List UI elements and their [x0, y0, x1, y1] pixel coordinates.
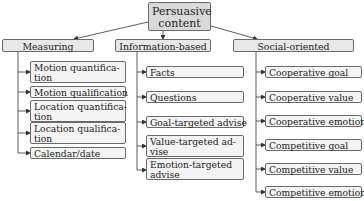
leaf-facts: Facts	[146, 66, 244, 78]
leaf-competitive-goal: Competitive goal	[265, 139, 362, 151]
category-information-based: Information-based	[115, 39, 211, 52]
leaf-label: Goal-targeted advise	[150, 118, 240, 128]
leaf-label: Facts	[150, 68, 240, 78]
leaf-label: Motion qualification	[34, 88, 122, 98]
leaf-competitive-emotion: Competitive emotion	[265, 186, 362, 198]
category-measuring: Measuring	[2, 39, 94, 52]
category-label: Social-oriented	[257, 41, 329, 52]
leaf-competitive-value: Competitive value	[265, 163, 362, 175]
leaf-cooperative-emotion: Cooperative emotion	[265, 115, 362, 127]
leaf-label: Cooperative emotion	[269, 117, 358, 127]
leaf-motion-qualification: Motion qualification	[30, 86, 126, 98]
leaf-label: Calendar/date	[34, 149, 122, 159]
leaf-emotion-targeted-advise: Emotion-targeted advise	[146, 158, 244, 180]
leaf-location-quantification: Location quantifica- tion	[30, 100, 126, 122]
leaf-label-cont: advise	[150, 170, 240, 180]
leaf-label-cont: tion	[34, 134, 122, 144]
leaf-location-qualification: Location qualifica- tion	[30, 122, 126, 144]
leaf-calendar-date: Calendar/date	[30, 147, 126, 159]
category-label: Measuring	[22, 41, 73, 52]
root-node-persuasive-content: Persuasive content	[148, 2, 211, 31]
leaf-label: Competitive goal	[269, 141, 358, 151]
leaf-label-cont: tion	[34, 112, 122, 122]
leaf-questions: Questions	[146, 91, 244, 103]
leaf-label: Cooperative goal	[269, 68, 358, 78]
leaf-label: Questions	[150, 93, 240, 103]
category-social-oriented: Social-oriented	[233, 39, 354, 52]
leaf-cooperative-goal: Cooperative goal	[265, 66, 362, 78]
category-label: Information-based	[119, 41, 206, 52]
leaf-label-cont: vise	[150, 147, 240, 157]
leaf-goal-targeted-advise: Goal-targeted advise	[146, 116, 244, 128]
leaf-value-targeted-advise: Value-targeted ad- vise	[146, 135, 244, 157]
leaf-label: Cooperative value	[269, 93, 358, 103]
root-label-line2: content	[152, 18, 207, 30]
leaf-cooperative-value: Cooperative value	[265, 91, 362, 103]
leaf-label: Competitive emotion	[269, 188, 358, 198]
leaf-label-cont: tion	[34, 73, 122, 83]
leaf-label: Competitive value	[269, 165, 358, 175]
leaf-motion-quantification: Motion quantifica- tion	[30, 61, 126, 83]
